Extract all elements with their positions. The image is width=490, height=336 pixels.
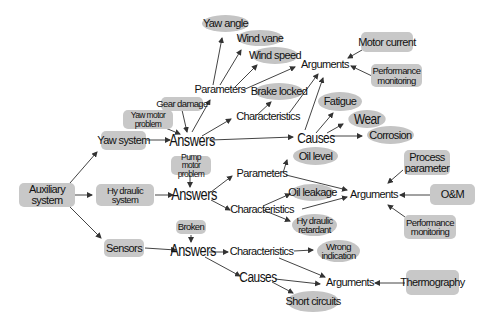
hydraulic-system-node: Hy draulic system [96, 184, 154, 206]
sensors-causes-node: Causes [244, 269, 273, 285]
hydraulic-arguments-node: Arguments [349, 187, 399, 201]
oil-leakage-node: Oil leakage [291, 184, 334, 201]
wind-speed-node: Wind speed [252, 47, 298, 64]
wind-vane-node: Wind vane [237, 30, 283, 46]
auxiliary-system-node: Auxiliary system [19, 183, 75, 207]
hydraulic-answers-node: Answers [176, 186, 211, 204]
yaw-angle-node: Yaw angle [202, 15, 249, 32]
yaw-arguments-node: Arguments [300, 57, 350, 71]
sensors-characteristics-node: Characteristics [229, 245, 294, 258]
yaw-performance-monitoring-node: Performance monitoring [371, 64, 422, 87]
process-parameter-node: Process parameter [404, 150, 450, 175]
pump-motor-problem-node: Pump motor problem [171, 156, 211, 175]
sensors-answers-node: Answers [176, 242, 210, 260]
corrosion-node: Corrosion [367, 126, 414, 144]
sensors-arguments-node: Arguments [326, 275, 374, 290]
motor-current-node: Motor current [361, 32, 413, 52]
hydraulic-performance-monitoring-node: Performance monitoring [404, 215, 456, 239]
thermography-node: Thermography [406, 270, 459, 295]
gear-damage-node: Gear damage [161, 97, 203, 111]
wear-node: Wear [348, 110, 385, 128]
hydraulic-parameters-node: Parameters [237, 167, 287, 180]
yaw-characteristics-node: Characteristics [236, 110, 300, 123]
yaw-causes-node: Causes [302, 129, 331, 146]
yaw-motor-problem-node: Yaw motor problem [123, 110, 173, 129]
wrong-indication-node: Wrong indication [317, 240, 360, 262]
short-circuits-node: Short circuits [287, 291, 339, 312]
om-node: O&M [430, 184, 475, 205]
oil-level-node: Oil level [293, 147, 338, 165]
hydraulic-characteristics-node: Characteristics [230, 203, 294, 216]
broken-node: Broken [176, 220, 206, 234]
sensors-node: Sensors [104, 239, 144, 257]
yaw-answers-node: Answers [173, 131, 211, 151]
fatigue-node: Fatigue [318, 92, 362, 111]
yaw-parameters-node: Parameters [196, 83, 244, 96]
hydraulic-retardant-node: Hy draulic retardant [292, 214, 337, 236]
yaw-system-node: Yaw system [101, 131, 146, 150]
brake-locked-node: Brake locked [255, 83, 303, 100]
